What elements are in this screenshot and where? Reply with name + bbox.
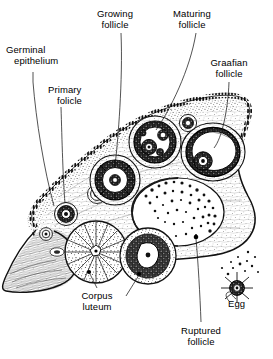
graafian-follicle xyxy=(181,123,245,181)
rupture-stigma xyxy=(194,235,199,240)
label-growing-follicle-line2: follicle xyxy=(86,19,144,30)
label-ruptured-follicle-line1: Ruptured xyxy=(181,325,221,336)
label-primary-folicle: Primary folicle xyxy=(48,84,82,106)
label-germinal-epithelium-line2: epithelium xyxy=(6,55,58,66)
label-egg: Egg xyxy=(228,298,245,309)
label-maturing-follicle-line1: Maturing xyxy=(173,8,211,19)
label-growing-follicle-line1: Growing xyxy=(97,8,133,19)
label-ruptured-follicle-line2: follicle xyxy=(168,336,234,347)
maturing-follicle xyxy=(129,116,181,168)
graafian-cumulus-oophorus xyxy=(194,152,212,170)
label-primary-folicle-line1: Primary xyxy=(48,84,81,95)
primordial-follicle-small-a xyxy=(40,228,53,241)
label-corpus-luteum-line1: Corpus xyxy=(81,290,112,301)
label-growing-follicle: Growing follicle xyxy=(86,8,144,30)
label-graafian-follicle-line2: follicle xyxy=(198,68,260,79)
label-corpus-luteum: Corpus luteum xyxy=(72,290,122,312)
label-graafian-follicle-line1: Graafian xyxy=(210,57,247,68)
corpus-luteum xyxy=(65,221,127,283)
growing-follicle xyxy=(90,155,140,205)
corpus-luteum-regressing xyxy=(120,228,176,284)
primary-folicle xyxy=(55,203,78,226)
label-germinal-epithelium: Germinal epithelium xyxy=(6,44,58,66)
label-corpus-luteum-line2: luteum xyxy=(72,301,122,312)
label-maturing-follicle-line2: follicle xyxy=(163,19,221,30)
label-maturing-follicle: Maturing follicle xyxy=(163,8,221,30)
primordial-follicle-small-c xyxy=(50,248,64,256)
label-graafian-follicle: Graafian follicle xyxy=(198,57,260,79)
label-primary-folicle-line2: folicle xyxy=(48,95,82,106)
label-egg-line1: Egg xyxy=(228,298,245,309)
label-germinal-epithelium-line1: Germinal xyxy=(6,44,45,55)
label-ruptured-follicle: Ruptured follicle xyxy=(168,325,234,347)
